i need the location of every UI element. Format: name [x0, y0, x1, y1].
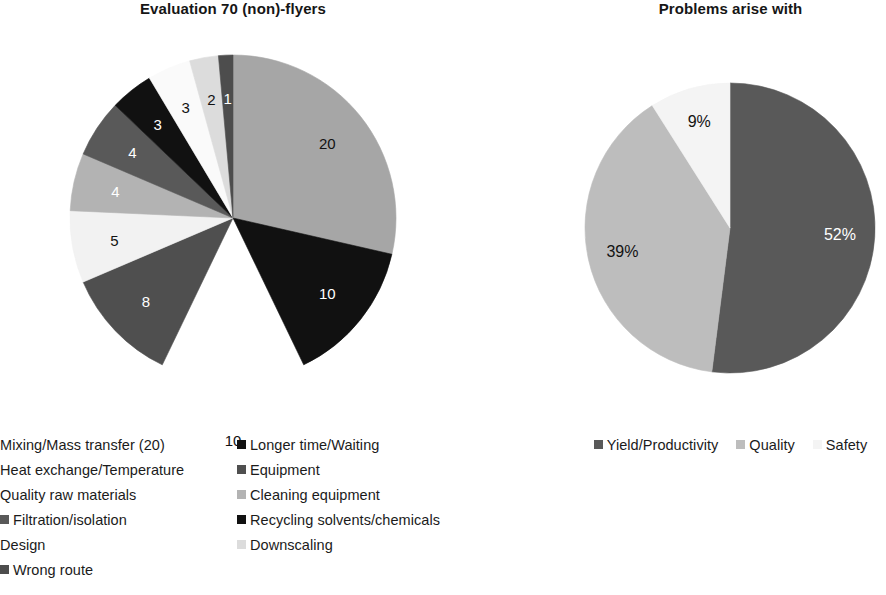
legend-label: Recycling solvents/chemicals — [250, 512, 440, 528]
legend-row: Mixing/Mass transfer (20)Longer time/Wai… — [0, 432, 500, 457]
legend-label: Safety — [826, 437, 867, 453]
legend-item[interactable]: Recycling solvents/chemicals — [237, 507, 497, 532]
legend-item[interactable]: Filtration/isolation — [0, 507, 237, 532]
pie-slice-label: 3 — [181, 100, 189, 115]
legend-label: Mixing/Mass transfer (20) — [0, 437, 165, 453]
legend-item[interactable]: Longer time/Waiting — [237, 432, 497, 457]
legend-swatch — [813, 440, 822, 449]
legend-row: Filtration/isolationRecycling solvents/c… — [0, 507, 500, 532]
right-chart-title: Problems arise with — [575, 0, 886, 17]
legend-item[interactable]: Downscaling — [237, 532, 497, 557]
legend-item[interactable]: Yield/Productivity — [594, 432, 719, 457]
left-chart-legend: Mixing/Mass transfer (20)Longer time/Wai… — [0, 432, 500, 582]
legend-item[interactable]: Design — [0, 532, 237, 557]
pie-slice-label: 4 — [111, 184, 119, 199]
pie-slice-label: 52% — [824, 227, 856, 243]
legend-item[interactable]: Quality raw materials — [0, 482, 237, 507]
pie-slice-label: 1 — [223, 90, 231, 105]
legend-row: DesignDownscaling — [0, 532, 500, 557]
legend-label: Quality raw materials — [0, 487, 136, 503]
legend-swatch — [237, 490, 246, 499]
legend-label: Heat exchange/Temperature — [0, 462, 184, 478]
legend-swatch — [237, 540, 246, 549]
legend-swatch — [237, 440, 246, 449]
legend-item[interactable]: Wrong route — [0, 557, 237, 582]
right-pie-chart: 52%39%9% — [585, 83, 875, 373]
legend-item[interactable]: Mixing/Mass transfer (20) — [0, 432, 237, 457]
legend-row: Wrong route — [0, 557, 500, 582]
pie-slice-label: 4 — [128, 144, 136, 159]
legend-row: Quality raw materialsCleaning equipment — [0, 482, 500, 507]
legend-swatch — [594, 440, 603, 449]
legend-label: Downscaling — [250, 537, 333, 553]
pie-slice-label: 39% — [606, 244, 638, 260]
left-pie-svg — [70, 55, 396, 381]
legend-swatch — [0, 515, 9, 524]
pie-slice-label: 2 — [207, 92, 215, 107]
legend-label: Yield/Productivity — [607, 437, 719, 453]
legend-swatch — [237, 465, 246, 474]
chart-page: Evaluation 70 (non)-flyers 2010108544332… — [0, 0, 886, 595]
legend-label: Wrong route — [13, 562, 93, 578]
legend-swatch — [237, 515, 246, 524]
legend-item[interactable]: Safety — [813, 432, 867, 457]
pie-slice-label: 3 — [154, 116, 162, 131]
left-pie-chart: 20101085443321 — [70, 55, 396, 381]
pie-slice-label: 20 — [319, 135, 336, 150]
left-chart-title: Evaluation 70 (non)-flyers — [0, 0, 466, 17]
legend-item[interactable]: Quality — [736, 432, 794, 457]
legend-item[interactable]: Heat exchange/Temperature — [0, 457, 237, 482]
legend-swatch — [736, 440, 745, 449]
legend-swatch — [0, 565, 9, 574]
pie-slice-label: 9% — [688, 114, 711, 130]
legend-label: Filtration/isolation — [13, 512, 127, 528]
pie-slice-label: 10 — [319, 286, 336, 301]
right-chart-legend: Yield/ProductivityQualitySafety — [575, 432, 886, 457]
legend-label: Quality — [749, 437, 794, 453]
legend-item[interactable]: Cleaning equipment — [237, 482, 497, 507]
legend-label: Equipment — [250, 462, 320, 478]
legend-label: Longer time/Waiting — [250, 437, 379, 453]
pie-slice-label: 8 — [142, 294, 150, 309]
legend-item[interactable]: Equipment — [237, 457, 497, 482]
legend-label: Cleaning equipment — [250, 487, 380, 503]
legend-row: Heat exchange/TemperatureEquipment — [0, 457, 500, 482]
pie-slice-label: 5 — [110, 232, 118, 247]
legend-label: Design — [0, 537, 45, 553]
